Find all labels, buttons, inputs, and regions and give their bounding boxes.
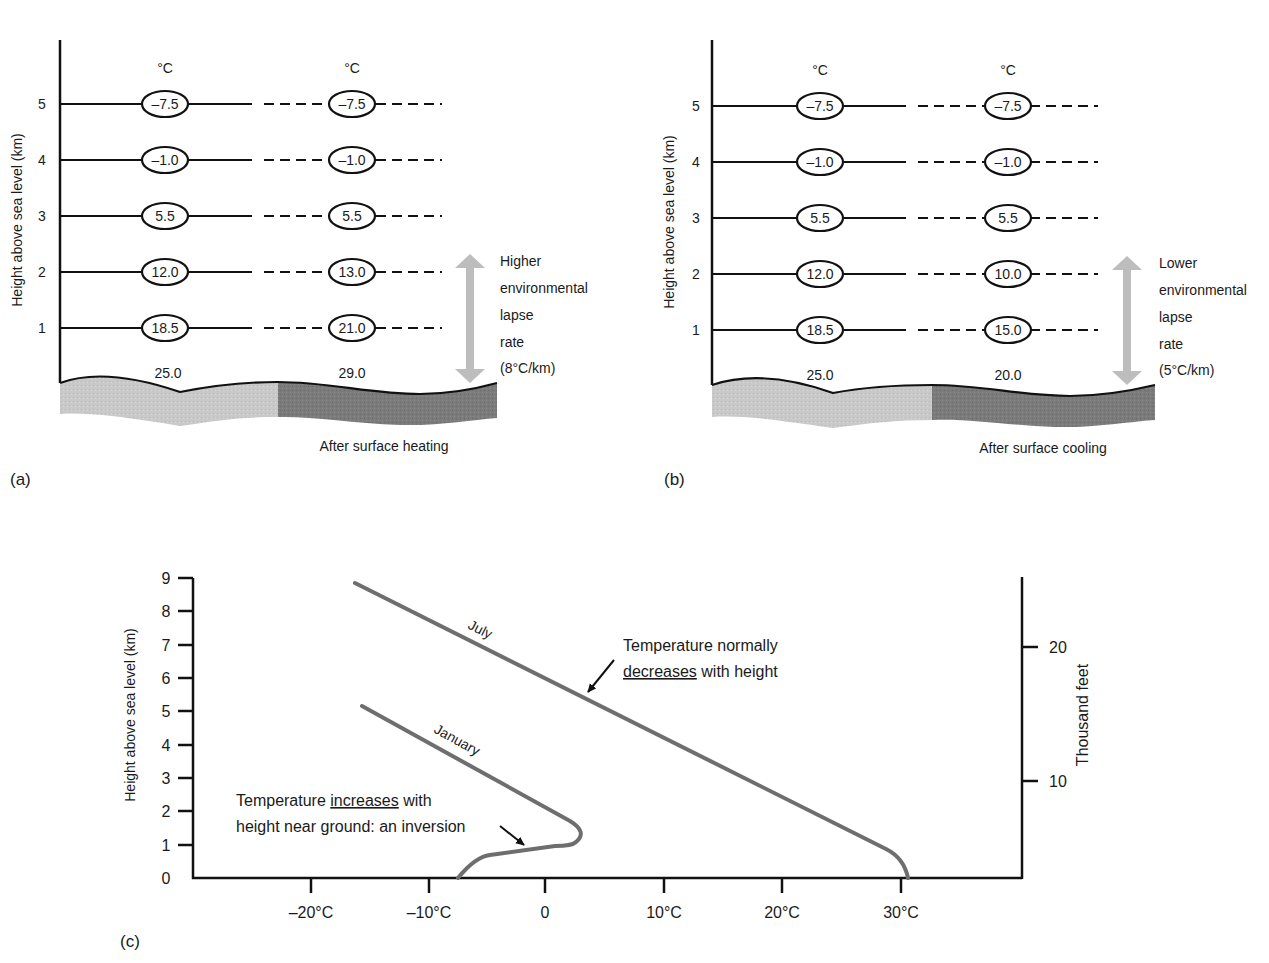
panel-b-col1-value: 12.0 [806,266,833,282]
panel-b-col1-value: 5.5 [810,210,830,226]
panel-c-ytick: 1 [162,837,171,854]
panel-a-col2-value: 13.0 [338,264,365,280]
panel-a-caption: After surface heating [319,438,448,454]
panel-b-ytick-2: 2 [692,266,700,282]
january-note-line2: height near ground: an inversion [236,818,466,835]
panel-a-unit-2: °C [344,60,360,76]
july-note-line2: decreases with height [623,663,778,680]
july-label: July [466,616,495,642]
panel-c-ytick: 3 [162,770,171,787]
january-note-underlined: increases [330,792,398,809]
panel-b-note: Lower [1159,255,1197,271]
panel-c-ytick: 9 [162,570,171,587]
panel-b-note: lapse [1159,309,1193,325]
panel-c-ytick: 6 [162,670,171,687]
panel-c-xtick: 20°C [764,904,800,921]
panel-c-ytick: 5 [162,703,171,720]
panel-a-col2-value: 5.5 [342,208,362,224]
panel-a-col2-value: 21.0 [338,320,365,336]
panel-b-note: (5°C/km) [1159,362,1214,378]
panel-c: 0 1 2 3 4 5 6 7 8 9 Height above sea lev… [120,570,1091,951]
panel-a-ytick-1: 1 [38,320,46,336]
panel-a-col1-value: 12.0 [151,264,178,280]
panel-c-ytick: 7 [162,637,171,654]
panel-b-note: environmental [1159,282,1247,298]
panel-a-col2-value: –7.5 [338,96,365,112]
panel-a-ytick-3: 3 [38,208,46,224]
panel-b-col2-value: 5.5 [998,210,1018,226]
panel-b-ytick-4: 4 [692,154,700,170]
panel-a-ytick-5: 5 [38,96,46,112]
panel-b: Height above sea level (km) 5 4 3 2 1 °C… [661,40,1247,489]
panel-c-xtick: 10°C [646,904,682,921]
panel-c-xtick: 0 [541,904,550,921]
panel-a-label: (a) [10,470,31,489]
panel-b-col2-value: 10.0 [994,266,1021,282]
panel-b-unit-2: °C [1000,62,1016,78]
panel-a-note: rate [500,334,524,350]
panel-a-note: (8°C/km) [500,360,555,376]
panel-b-label: (b) [664,470,685,489]
panel-a-surface-1: 25.0 [154,365,181,381]
panel-a-col1-value: –7.5 [151,96,178,112]
panel-c-xtick: –20°C [289,904,334,921]
panel-c-xtick: –10°C [407,904,452,921]
panel-a-ytick-2: 2 [38,264,46,280]
panel-c-right-tick: 10 [1049,773,1067,790]
panel-c-right-label: Thousand feet [1074,663,1091,766]
january-note-pre: Temperature [236,792,330,809]
panel-b-surface-2: 20.0 [994,367,1021,383]
panel-b-caption: After surface cooling [979,440,1107,456]
panel-a: Height above sea level (km) 5 4 3 2 1 °C… [9,40,588,489]
panel-c-ytick: 2 [162,803,171,820]
panel-a-ytick-4: 4 [38,152,46,168]
panel-a-double-arrow-icon [455,254,485,383]
panel-a-unit-1: °C [157,60,173,76]
panel-b-ytick-3: 3 [692,210,700,226]
panel-b-col2-value: –7.5 [994,98,1021,114]
panel-a-col1-value: –1.0 [151,152,178,168]
panel-c-y-label: Height above sea level (km) [122,628,138,802]
panel-a-note: environmental [500,280,588,296]
panel-b-col1-value: –1.0 [806,154,833,170]
january-label: January [432,721,483,759]
july-note-pointer-arrow-icon [588,660,614,692]
july-note-line1: Temperature normally [623,637,778,654]
panel-b-y-label: Height above sea level (km) [661,135,677,309]
panel-b-surface-1: 25.0 [806,367,833,383]
panel-a-note: Higher [500,253,542,269]
panel-b-col1-value: –7.5 [806,98,833,114]
january-note-pointer-arrow-icon [500,826,524,845]
panel-a-surface-2: 29.0 [338,365,365,381]
panel-b-col2-value: –1.0 [994,154,1021,170]
panel-b-col2-value: 15.0 [994,322,1021,338]
panel-c-ytick: 8 [162,603,171,620]
july-note-rest: with height [697,663,778,680]
panel-a-ground-dark [278,382,497,425]
panel-b-note: rate [1159,336,1183,352]
figure-canvas: Height above sea level (km) 5 4 3 2 1 °C… [0,0,1269,963]
panel-a-note: lapse [500,307,534,323]
panel-a-col2-value: –1.0 [338,152,365,168]
panel-c-ytick: 4 [162,737,171,754]
panel-c-right-tick: 20 [1049,639,1067,656]
panel-a-col1-value: 18.5 [151,320,178,336]
july-note-underlined: decreases [623,663,697,680]
panel-b-unit-1: °C [812,62,828,78]
panel-a-col1-value: 5.5 [155,208,175,224]
panel-c-ytick: 0 [162,870,171,887]
panel-c-label: (c) [120,932,140,951]
panel-a-y-label: Height above sea level (km) [9,133,25,307]
panel-b-ytick-1: 1 [692,322,700,338]
panel-c-xtick: 30°C [883,904,919,921]
panel-b-double-arrow-icon [1112,256,1142,385]
january-note-line1: Temperature increases with [236,792,432,809]
panel-b-ytick-5: 5 [692,98,700,114]
panel-b-col1-value: 18.5 [806,322,833,338]
january-note-post: with [399,792,432,809]
